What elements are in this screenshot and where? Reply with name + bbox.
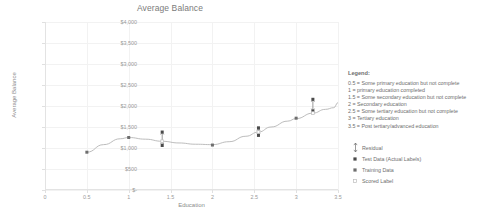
y-axis-tick-mark xyxy=(42,85,45,86)
legend-code-item: 1 = primary education completed xyxy=(348,87,478,94)
data-point-test xyxy=(161,131,164,134)
square-marker-light-icon xyxy=(348,178,362,184)
x-axis-tick-label: 0.5 xyxy=(75,194,99,200)
x-axis-tick-mark xyxy=(296,190,297,193)
residual-arrow-icon xyxy=(348,142,362,153)
x-axis-tick-label: 3.5 xyxy=(326,194,350,200)
x-axis-title: Education xyxy=(45,202,338,208)
y-axis-tick-mark xyxy=(42,148,45,149)
plot-area xyxy=(45,22,338,190)
x-axis-tick-label: 1 xyxy=(117,194,141,200)
legend-series-keys: ResidualTest Data (Actual Labels)Trainin… xyxy=(348,142,478,186)
y-axis-tick-label: $2,000 xyxy=(103,103,137,109)
legend-key-residual[interactable]: Residual xyxy=(348,142,478,153)
y-axis-tick-label: $2,500 xyxy=(103,82,137,88)
y-axis-tick-label: $4,000 xyxy=(103,19,137,25)
legend-key-scored-label[interactable]: Scored Label xyxy=(348,175,478,186)
y-axis-tick-mark xyxy=(42,43,45,44)
legend-code-item: 1.5 = Some secondary education but not c… xyxy=(348,94,478,101)
y-axis-tick-mark xyxy=(42,64,45,65)
data-point-test xyxy=(257,134,260,137)
legend-key-label: Test Data (Actual Labels) xyxy=(362,156,421,162)
x-axis-tick-mark xyxy=(129,190,130,193)
legend-code-item: 0.5 = Some primary education but not com… xyxy=(348,80,478,87)
page-title: Average Balance xyxy=(0,3,340,13)
data-point-scored-label xyxy=(257,131,260,134)
gridline-vertical xyxy=(338,22,339,190)
legend-code-item: 2.5 = Some tertiary education but not co… xyxy=(348,108,478,115)
y-axis-title: Average Balance xyxy=(11,55,17,135)
x-axis-tick-label: 2.5 xyxy=(242,194,266,200)
x-axis-tick-mark xyxy=(45,190,46,193)
y-axis-tick-label: $3,000 xyxy=(103,61,137,67)
legend-code-item: 3 = Tertiary education xyxy=(348,115,478,122)
y-axis-tick-mark xyxy=(42,22,45,23)
y-axis-tick-label: $500 xyxy=(103,166,137,172)
data-point-test xyxy=(257,126,260,129)
data-point-training xyxy=(85,151,88,154)
data-point-training xyxy=(211,144,214,147)
x-axis-tick-label: 1.5 xyxy=(159,194,183,200)
y-axis-tick-mark xyxy=(42,169,45,170)
gridline-horizontal xyxy=(45,190,338,191)
chart-root: Average Balance $-$500$1,000$1,500$2,000… xyxy=(0,0,479,220)
data-point-training xyxy=(295,117,298,120)
data-point-test xyxy=(311,98,314,101)
square-marker-dark-icon xyxy=(348,156,362,162)
legend-code-item: 2 = Secondary education xyxy=(348,101,478,108)
legend-code-list: 0.5 = Some primary education but not com… xyxy=(348,80,478,130)
x-axis-tick-mark xyxy=(171,190,172,193)
x-axis-tick-mark xyxy=(87,190,88,193)
y-axis-tick-mark xyxy=(42,127,45,128)
legend-education-codes: Legend: 0.5 = Some primary education but… xyxy=(348,70,478,130)
legend-code-item: 3.5 = Post tertiary/advanced education xyxy=(348,123,478,130)
square-marker-mid-icon xyxy=(348,167,362,173)
y-axis-tick-label: $3,500 xyxy=(103,40,137,46)
y-axis-tick-mark xyxy=(42,106,45,107)
legend-key-label: Scored Label xyxy=(362,178,393,184)
series-layer xyxy=(45,22,338,190)
legend-key-label: Training Data xyxy=(362,167,394,173)
y-axis-tick-label: $1,000 xyxy=(103,145,137,151)
data-point-test xyxy=(161,144,164,147)
x-axis-tick-label: 0 xyxy=(33,194,57,200)
legend-key-test-data-actual-labels[interactable]: Test Data (Actual Labels) xyxy=(348,153,478,164)
data-point-scored-label xyxy=(311,112,314,115)
data-point-training xyxy=(127,136,130,139)
legend-key-training-data[interactable]: Training Data xyxy=(348,164,478,175)
x-axis-tick-mark xyxy=(212,190,213,193)
x-axis-tick-label: 3 xyxy=(284,194,308,200)
x-axis-tick-mark xyxy=(254,190,255,193)
legend-key-label: Residual xyxy=(362,145,383,151)
data-point-scored-label xyxy=(161,140,164,143)
y-axis-tick-label: $- xyxy=(103,187,137,193)
legend-heading: Legend: xyxy=(348,70,478,76)
x-axis-tick-label: 2 xyxy=(200,194,224,200)
x-axis-tick-mark xyxy=(338,190,339,193)
y-axis-tick-label: $1,500 xyxy=(103,124,137,130)
